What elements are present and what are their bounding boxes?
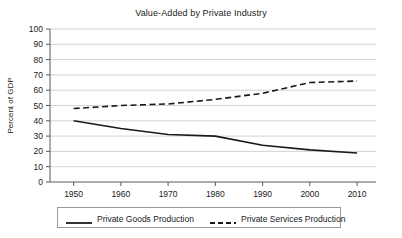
data-series	[74, 81, 357, 153]
legend-label: Private Services Production	[241, 214, 345, 224]
legend-label: Private Goods Production	[97, 214, 194, 224]
legend-item: Private Goods Production	[66, 208, 194, 229]
plot-area	[0, 0, 402, 238]
series-line-0	[74, 121, 357, 153]
series-line-1	[74, 81, 357, 109]
chart-container: Value-Added by Private Industry Percent …	[0, 0, 402, 238]
dashed-line-swatch-icon	[210, 214, 236, 224]
gridlines	[50, 29, 376, 167]
solid-line-swatch-icon	[66, 214, 92, 224]
legend-item: Private Services Production	[210, 208, 345, 229]
y-axis-tick-marks	[46, 29, 50, 182]
chart-legend: Private Goods ProductionPrivate Services…	[57, 207, 341, 228]
x-axis-tick-marks	[74, 182, 357, 186]
